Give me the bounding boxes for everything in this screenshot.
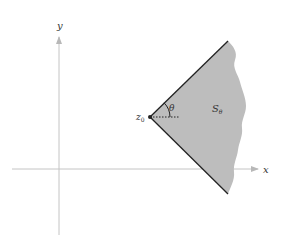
- sector-region: [150, 41, 246, 194]
- sector-diagram: y x z0 θ Sθ: [0, 0, 292, 239]
- vertex-label-sub: 0: [141, 116, 145, 123]
- y-axis-label: y: [56, 20, 63, 31]
- vertex-label: z0: [135, 112, 145, 123]
- vertex-point: [148, 115, 152, 119]
- region-label-sub: θ: [219, 108, 223, 115]
- x-axis-label: x: [263, 164, 269, 175]
- angle-label: θ: [169, 103, 175, 113]
